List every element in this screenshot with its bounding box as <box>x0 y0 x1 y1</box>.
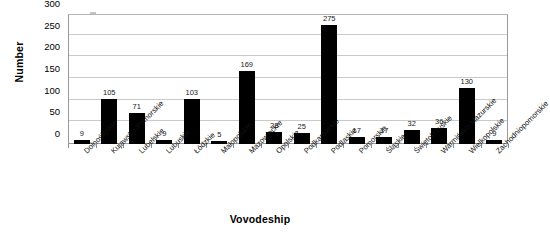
x-axis-tick-mark <box>68 144 69 148</box>
y-axis-tick-label: 250 <box>44 19 60 30</box>
bar-value-label: 103 <box>185 88 198 97</box>
bar-value-label: 5 <box>217 130 221 139</box>
y-axis-tick-label: 150 <box>44 63 60 74</box>
bar-slot: 9 <box>151 14 179 144</box>
bar-value-label: 169 <box>240 60 253 69</box>
bar-slot: 17 <box>343 14 371 144</box>
bar-slot: 5 <box>206 14 234 144</box>
bar-value-label: 275 <box>323 14 336 23</box>
bar-slot: 25 <box>288 14 316 144</box>
bar-value-label: 71 <box>133 102 141 111</box>
bar-slot: 9 <box>68 14 96 144</box>
bar-value-label: 130 <box>460 77 473 86</box>
bar-value-label: 105 <box>103 88 116 97</box>
bar-slot: 103 <box>178 14 206 144</box>
bar-value-label: 9 <box>80 129 84 138</box>
y-axis-tick-label: 50 <box>49 106 60 117</box>
y-axis-tick-label: 100 <box>44 84 60 95</box>
x-axis-tick-labels: DolnośląskieKujawsko-PomorskieLubelskieL… <box>68 149 508 219</box>
y-axis-tick-label: 300 <box>44 0 60 9</box>
y-axis-tick-labels: 050100150200250300 <box>28 14 64 144</box>
bar-slot: 17 <box>371 14 399 144</box>
y-axis-tick-label: 200 <box>44 41 60 52</box>
y-axis-tick-label: 0 <box>55 128 60 139</box>
bar-value-label: 25 <box>298 122 306 131</box>
y-axis-title: Number <box>13 17 25 107</box>
bar-value-label: 32 <box>408 119 416 128</box>
bar-slot: 32 <box>398 14 426 144</box>
x-axis-title: Vovodeship <box>0 213 520 225</box>
